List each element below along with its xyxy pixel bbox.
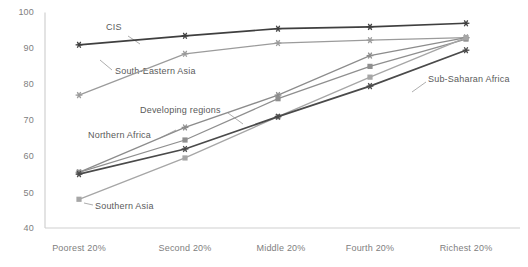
data-point-marker xyxy=(463,35,468,40)
data-point-marker xyxy=(184,148,186,150)
line-chart: 100 90 80 70 60 50 40 Poorest 20% Second… xyxy=(0,0,528,267)
series-line xyxy=(79,38,466,173)
data-point-marker xyxy=(275,96,280,101)
series-northern-africa xyxy=(76,35,470,176)
plot-area xyxy=(0,0,528,267)
data-point-marker xyxy=(465,49,467,51)
data-point-marker xyxy=(277,94,279,96)
data-point-marker xyxy=(184,53,186,55)
data-point-marker xyxy=(78,94,80,96)
data-point-marker xyxy=(367,75,372,80)
data-point-marker xyxy=(277,115,279,117)
data-point-marker xyxy=(369,39,371,41)
data-point-marker xyxy=(369,54,371,56)
series-developing-regions xyxy=(76,36,468,174)
data-point-marker xyxy=(78,173,80,175)
data-point-marker xyxy=(277,27,279,29)
series-sub-saharan-africa xyxy=(76,47,470,177)
data-point-marker xyxy=(367,64,372,69)
data-point-marker xyxy=(184,35,186,37)
series-line xyxy=(79,50,466,174)
series-line xyxy=(79,38,466,95)
series-line xyxy=(79,23,466,45)
data-point-marker xyxy=(277,42,279,44)
data-point-marker xyxy=(369,85,371,87)
data-point-marker xyxy=(369,26,371,28)
annotation-leader-line xyxy=(100,60,112,70)
data-point-marker xyxy=(182,137,187,142)
data-point-marker xyxy=(78,44,80,46)
series-south-eastern-asia xyxy=(76,35,470,98)
annotation-leader-line xyxy=(412,82,426,92)
data-point-marker xyxy=(182,155,187,160)
data-point-marker xyxy=(76,197,81,202)
series-line xyxy=(79,39,466,172)
data-point-marker xyxy=(184,126,186,128)
data-point-marker xyxy=(465,22,467,24)
annotation-leader-line xyxy=(84,203,93,205)
